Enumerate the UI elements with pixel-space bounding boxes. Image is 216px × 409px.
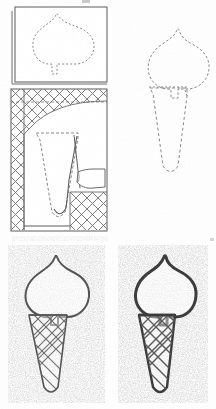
panel-3-canvas — [131, 24, 215, 196]
card-border — [15, 7, 107, 82]
dashed-cone-body-outline — [150, 88, 187, 172]
panel-2-canvas — [10, 88, 110, 234]
panel-dashed-full-cone-template — [131, 24, 215, 196]
panel-finished-cone-bold — [118, 245, 210, 405]
lower-middle-scan-streak — [12, 236, 108, 241]
top-edge-scan-smudge — [82, 0, 90, 3]
panel-4-canvas — [8, 245, 106, 405]
panel-5-canvas — [118, 245, 210, 405]
panel-1-canvas — [10, 5, 110, 87]
panel-template-box-scoop — [10, 5, 110, 87]
peeling-flap-curl — [77, 169, 105, 188]
illustration-sheet — [0, 0, 216, 409]
streak-canvas — [12, 236, 108, 241]
right-margin-speck — [210, 238, 214, 241]
panel-finished-cone-light — [8, 245, 106, 405]
crosshatch-bottom-block — [65, 188, 110, 234]
panel-crosshatch-stencil-layout — [10, 88, 110, 234]
